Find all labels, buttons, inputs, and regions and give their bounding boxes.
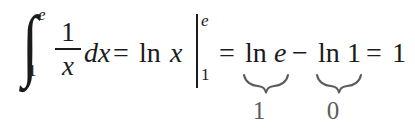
underbrace-label-first-term: 1 bbox=[244, 98, 274, 123]
antiderivative-argument: x bbox=[170, 39, 182, 67]
evaluation-bar bbox=[196, 14, 198, 88]
equals-sign-first: = bbox=[113, 39, 129, 67]
fraction-numerator: 1 bbox=[54, 18, 82, 46]
first-term-operator: ln bbox=[245, 39, 267, 67]
fraction-bar bbox=[55, 48, 81, 50]
minus-sign: − bbox=[292, 39, 308, 67]
antiderivative-operator: ln bbox=[139, 39, 161, 67]
underbrace-label-second-term: 0 bbox=[318, 98, 348, 123]
result-value: 1 bbox=[392, 39, 406, 67]
first-term-argument: e bbox=[274, 39, 286, 67]
differential-dx: dx bbox=[84, 39, 110, 67]
integrand-fraction: 1 x bbox=[54, 18, 82, 81]
second-term-operator: ln bbox=[318, 39, 340, 67]
underbrace-second-term-icon bbox=[316, 74, 362, 94]
evaluation-lower-limit: 1 bbox=[201, 66, 210, 83]
underbrace-first-term-icon bbox=[243, 74, 289, 94]
equals-sign-third: = bbox=[366, 39, 382, 67]
integral-upper-limit: e bbox=[38, 6, 46, 23]
evaluation-upper-limit: e bbox=[201, 12, 209, 29]
equals-sign-second: = bbox=[219, 39, 235, 67]
second-term-argument: 1 bbox=[347, 39, 361, 67]
integral-lower-limit: 1 bbox=[28, 62, 37, 79]
equation-canvas: ∫ e 1 1 x dx = ln x e 1 = ln e − ln 1 = … bbox=[0, 0, 415, 135]
fraction-denominator: x bbox=[54, 52, 82, 80]
